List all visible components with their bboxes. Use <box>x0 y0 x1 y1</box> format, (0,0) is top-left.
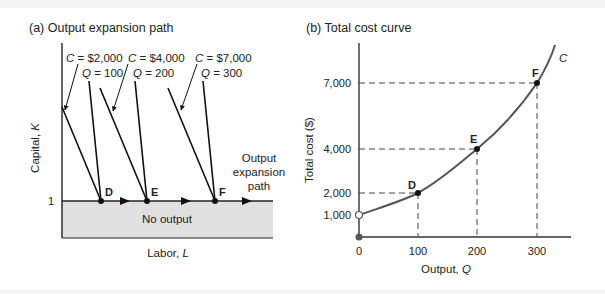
y-tick-4000: 4,000 <box>323 143 351 155</box>
point-d-label: D <box>105 186 113 198</box>
point-d-label: D <box>408 179 416 191</box>
figure: (a) Output expansion path No output Capi… <box>0 0 605 294</box>
panel-a-y-label: Capital, K <box>29 122 41 173</box>
point-e-label: E <box>470 133 477 145</box>
isoquant-300 <box>203 81 215 201</box>
isoquant-100 <box>89 81 101 201</box>
isocost-2000 <box>62 107 101 201</box>
x-tick-100: 100 <box>409 245 427 257</box>
path-label-line-3: path <box>248 180 270 192</box>
fixed-cost-open-point <box>356 212 363 219</box>
annotation-arrow-icon <box>181 64 197 110</box>
panel-a-y-tick: 1 <box>48 195 54 207</box>
panel-b-y-label: Total cost ($) <box>303 117 315 183</box>
annotation-c-7000: C = $7,000 <box>195 52 252 64</box>
annotation-q-200: Q = 200 <box>133 67 174 79</box>
y-tick-2000: 2,000 <box>323 187 351 199</box>
panel-a: (a) Output expansion path No output Capi… <box>29 21 285 259</box>
panel-b-x-label: Output, Q <box>421 263 471 275</box>
total-cost-curve <box>359 45 555 215</box>
annotation-c-2000: C = $2,000 <box>66 52 123 64</box>
point-e <box>474 146 480 152</box>
annotation-c-4000: C = $4,000 <box>128 52 185 64</box>
annotation-q-300: Q = 300 <box>201 67 242 79</box>
annotation-q-100: Q = 100 <box>82 67 123 79</box>
x-tick-200: 200 <box>468 245 486 257</box>
isocost-7000 <box>168 88 215 201</box>
point-f <box>534 80 540 86</box>
point-e <box>144 198 150 204</box>
point-f-label: F <box>532 67 539 79</box>
point-f <box>212 198 218 204</box>
panel-b: (b) Total cost curve Total cost ($) 7,00… <box>303 21 571 275</box>
x-tick-300: 300 <box>528 245 546 257</box>
curve-label: C <box>559 52 568 64</box>
y-tick-7000: 7,000 <box>323 77 351 89</box>
guide-lines <box>359 83 537 237</box>
point-e-label: E <box>151 186 158 198</box>
isocost-4000 <box>100 88 147 201</box>
isoquant-200 <box>135 81 147 201</box>
y-tick-1000: 1,000 <box>323 209 351 221</box>
annotation-arrow-icon <box>65 64 78 110</box>
no-output-label: No output <box>142 213 193 225</box>
origin-point <box>356 234 363 241</box>
path-label-line-2: expansion <box>233 166 285 178</box>
point-d <box>98 198 104 204</box>
panel-a-title: (a) Output expansion path <box>29 21 174 35</box>
panel-a-x-label: Labor, L <box>147 247 189 259</box>
path-label-line-1: Output <box>242 152 277 164</box>
point-f-label: F <box>219 186 226 198</box>
x-tick-0: 0 <box>356 245 362 257</box>
panel-b-title: (b) Total cost curve <box>306 21 411 35</box>
